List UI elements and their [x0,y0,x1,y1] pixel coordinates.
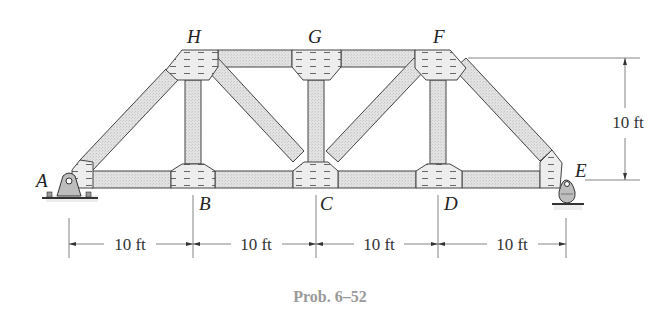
member-HC [206,58,304,162]
member-CD [338,171,416,188]
member-GC [308,80,324,164]
gusset-C [293,162,338,188]
gusset-D [416,164,462,188]
member-AH [80,69,178,170]
gusset-H [166,50,218,80]
dimension-panel-2: 10 ft [240,235,272,254]
joint-label-B: B [199,193,211,214]
member-HG [218,50,292,67]
gusset-B [171,164,215,188]
member-HB [185,80,201,164]
dimension-panel-4: 10 ft [496,235,528,254]
joint-label-A: A [34,170,48,191]
member-FE [454,58,552,161]
member-AB [92,171,171,188]
gusset-G [292,50,341,80]
joint-label-E: E [574,160,587,181]
gusset-F [415,50,466,80]
member-FD [430,80,446,164]
joint-label-G: G [308,26,322,47]
joint-label-H: H [186,26,202,47]
joint-label-F: F [432,26,445,47]
joint-label-D: D [443,193,458,214]
truss-figure: A B C D E F G H 10 ft 10 ft 10 ft 10 ft [0,0,670,312]
member-DE [462,171,540,188]
dimension-panel-1: 10 ft [114,235,146,254]
member-CF [326,58,426,162]
member-BC [215,171,293,188]
dimension-height: 10 ft [612,113,644,132]
figure-caption: Prob. 6–52 [293,288,366,305]
joint-label-C: C [320,193,333,214]
member-GF [341,50,415,67]
dimension-panel-3: 10 ft [363,235,395,254]
